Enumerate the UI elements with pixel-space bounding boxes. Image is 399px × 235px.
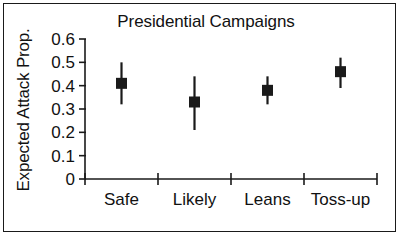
axes [79, 39, 377, 185]
data-point-marker [335, 66, 346, 77]
data-point-marker [189, 97, 200, 108]
plot-area [0, 0, 399, 235]
data-point-marker [262, 85, 273, 96]
data-point-marker [116, 78, 127, 89]
chart-figure: Presidential Campaigns Expected Attack P… [0, 0, 399, 235]
data-series [116, 58, 346, 130]
